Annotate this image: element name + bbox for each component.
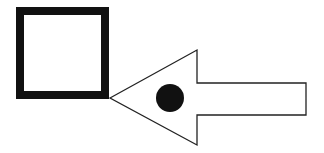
filled-dot-icon (156, 84, 184, 112)
left-arrow-shape (110, 50, 306, 145)
square-box (20, 11, 105, 95)
diagram-canvas (0, 0, 324, 153)
